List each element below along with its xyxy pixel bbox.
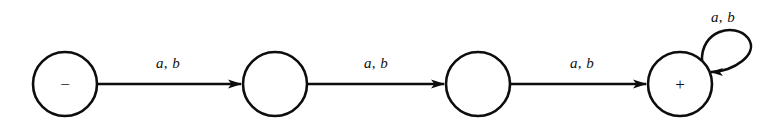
transition-label-q1-q2: a, b xyxy=(364,55,388,71)
state-mark-q0: − xyxy=(60,75,70,94)
transition-q0-q1: a, b xyxy=(97,55,241,84)
transition-q2-q3: a, b xyxy=(510,55,646,84)
state-mark-q3: + xyxy=(675,75,685,94)
transition-q1-q2: a, b xyxy=(307,55,444,84)
transition-label-q2-q3: a, b xyxy=(570,55,594,71)
transition-label-q0-q1: a, b xyxy=(156,55,180,71)
automaton-diagram: a, b a, b a, b a, b − + xyxy=(0,0,764,127)
state-circle-q1[interactable] xyxy=(243,52,307,116)
state-q2[interactable] xyxy=(446,52,510,116)
state-circle-q2[interactable] xyxy=(446,52,510,116)
self-loop-label-q3: a, b xyxy=(711,9,735,25)
state-q3[interactable]: + xyxy=(648,52,712,116)
self-loop-q3: a, b xyxy=(702,9,751,72)
state-q0[interactable]: − xyxy=(33,52,97,116)
state-q1[interactable] xyxy=(243,52,307,116)
self-loop-path-q3 xyxy=(702,30,751,72)
